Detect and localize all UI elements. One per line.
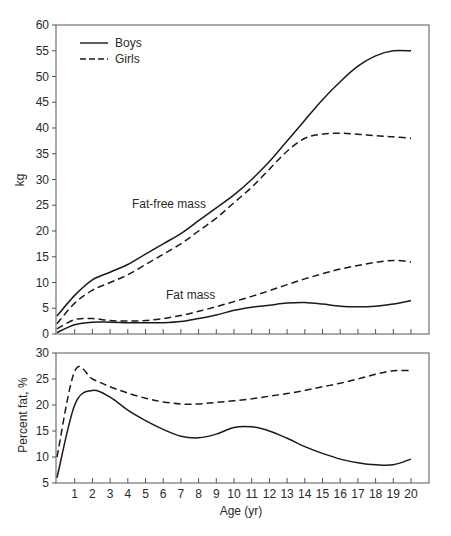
body-composition-figure: 051015202530354045505560 kg Boys Girls F… — [0, 0, 451, 536]
x-tick-label: 17 — [351, 487, 365, 501]
x-tick-label: 10 — [227, 487, 241, 501]
y-tick-label: 60 — [36, 18, 50, 32]
x-tick-label: 1 — [71, 487, 78, 501]
top-plot-frame — [56, 25, 429, 334]
x-tick-label: 9 — [213, 487, 220, 501]
bottom-y-axis-label: Percent fat, % — [16, 377, 30, 453]
x-tick-label: 6 — [160, 487, 167, 501]
x-tick-label: 16 — [334, 487, 348, 501]
boys-fat-mass-line — [57, 301, 411, 333]
y-tick-label: 30 — [36, 173, 50, 187]
legend-girls-label: Girls — [115, 52, 140, 66]
bottom-x-axis-ticks: 1234567891011121314151617181920 — [71, 478, 418, 501]
x-tick-label: 19 — [387, 487, 401, 501]
top-y-axis-ticks: 051015202530354045505560 — [36, 18, 56, 341]
y-tick-label: 15 — [36, 424, 50, 438]
y-tick-label: 10 — [36, 450, 50, 464]
annotation-fat-free-mass: Fat-free mass — [132, 197, 206, 211]
y-tick-label: 10 — [36, 276, 50, 290]
y-tick-label: 40 — [36, 121, 50, 135]
x-tick-label: 3 — [107, 487, 114, 501]
x-tick-label: 13 — [280, 487, 294, 501]
boys-line — [57, 390, 411, 478]
y-tick-label: 55 — [36, 44, 50, 58]
y-tick-label: 5 — [42, 301, 49, 315]
x-tick-label: 7 — [178, 487, 185, 501]
y-tick-label: 45 — [36, 95, 50, 109]
boys-fat-free-mass-line — [57, 50, 411, 316]
x-tick-label: 5 — [142, 487, 149, 501]
y-tick-label: 20 — [36, 224, 50, 238]
top-y-axis-label: kg — [13, 174, 27, 187]
girls-line — [57, 367, 411, 457]
x-tick-label: 12 — [263, 487, 277, 501]
x-tick-label: 8 — [195, 487, 202, 501]
top-series-lines — [57, 50, 411, 332]
bottom-series-lines — [57, 367, 411, 478]
x-tick-label: 4 — [124, 487, 131, 501]
girls-fat-mass-line — [57, 260, 411, 329]
y-tick-label: 25 — [36, 198, 50, 212]
x-axis-label: Age (yr) — [220, 504, 263, 518]
y-tick-label: 30 — [36, 346, 50, 360]
x-tick-label: 11 — [245, 487, 258, 501]
bottom-y-axis-ticks: 51015202530 — [36, 346, 56, 490]
y-tick-label: 5 — [42, 476, 49, 490]
x-tick-label: 2 — [89, 487, 96, 501]
y-tick-label: 25 — [36, 372, 50, 386]
y-tick-label: 15 — [36, 250, 50, 264]
legend: Boys Girls — [80, 36, 142, 66]
x-tick-label: 20 — [404, 487, 418, 501]
y-tick-label: 50 — [36, 70, 50, 84]
legend-boys-label: Boys — [115, 36, 142, 50]
annotation-fat-mass: Fat mass — [166, 288, 215, 302]
bottom-plot-frame — [56, 353, 429, 483]
y-tick-label: 35 — [36, 147, 50, 161]
bottom-panel: 51015202530 1234567891011121314151617181… — [16, 346, 429, 518]
y-tick-label: 0 — [42, 327, 49, 341]
x-tick-label: 18 — [369, 487, 383, 501]
x-tick-label: 14 — [298, 487, 312, 501]
y-tick-label: 20 — [36, 398, 50, 412]
x-tick-label: 15 — [316, 487, 330, 501]
top-x-axis-ticks — [75, 329, 411, 334]
top-panel: 051015202530354045505560 kg Boys Girls F… — [13, 18, 429, 341]
girls-fat-free-mass-line — [57, 133, 411, 324]
